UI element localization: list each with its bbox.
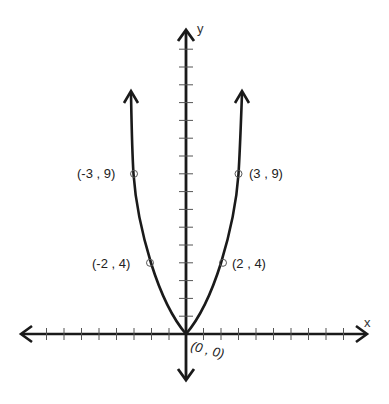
point-label-origin: (0 , 0)	[189, 338, 226, 361]
point-label-3-9: (3 , 9)	[249, 166, 283, 181]
parabola-graph: y x (-3 , 9) (3 , 9) (-2 , 4) (2 , 4) (0…	[0, 0, 389, 404]
x-axis-label: x	[364, 315, 371, 330]
point-label-m2-4: (-2 , 4)	[92, 256, 130, 271]
point-label-m3-9: (-3 , 9)	[77, 166, 115, 181]
point-label-2-4: (2 , 4)	[232, 256, 266, 271]
y-axis-label: y	[197, 21, 204, 36]
